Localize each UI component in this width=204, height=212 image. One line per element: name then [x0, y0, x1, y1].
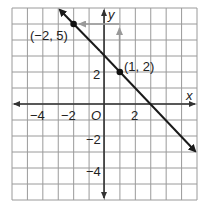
- y-tick-neg2: −2: [86, 132, 101, 147]
- y-tick-neg4: −4: [86, 164, 101, 179]
- point-neg2-5: [70, 21, 77, 28]
- y-tick-2: 2: [93, 67, 100, 82]
- graph-svg: (−2, 5) (1, 2) y x O −4 −2 2 2 −2 −4: [0, 0, 204, 212]
- x-axis-label: x: [185, 88, 193, 103]
- point-1-2: [117, 69, 124, 76]
- x-tick-2: 2: [131, 108, 138, 123]
- point-label-2: (1, 2): [124, 59, 154, 74]
- coordinate-plane: (−2, 5) (1, 2) y x O −4 −2 2 2 −2 −4: [0, 0, 204, 212]
- origin-label: O: [91, 108, 101, 123]
- point-label-1: (−2, 5): [30, 28, 68, 43]
- y-axis-label: y: [107, 7, 116, 22]
- x-tick-neg4: −4: [30, 108, 45, 123]
- x-tick-neg2: −2: [61, 108, 76, 123]
